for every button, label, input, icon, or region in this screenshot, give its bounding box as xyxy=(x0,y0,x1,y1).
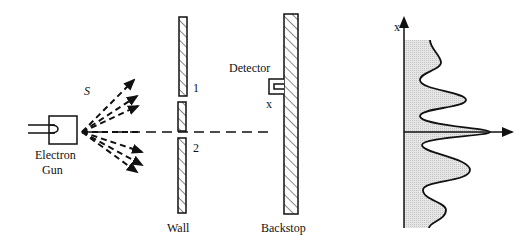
gun-label-line2: Gun xyxy=(42,163,63,177)
electron-gun xyxy=(28,116,77,144)
slit-2-label: 2 xyxy=(193,141,199,155)
gun-label-line1: Electron xyxy=(35,148,76,162)
electron-paths xyxy=(82,80,142,172)
graph-axis-label: x xyxy=(394,20,400,34)
backstop xyxy=(284,14,298,214)
source-label: S xyxy=(84,84,90,98)
detector-position-label: x xyxy=(266,97,272,111)
slit-1-label: 1 xyxy=(193,81,199,95)
backstop-label: Backstop xyxy=(261,221,306,235)
detector xyxy=(269,79,284,94)
detector-label: Detector xyxy=(229,61,270,75)
wall xyxy=(178,17,187,213)
wall-label: Wall xyxy=(167,221,190,235)
interference-graph xyxy=(404,18,512,228)
double-slit-diagram: Electron Gun S 1 2 Wall Backstop Detecto… xyxy=(0,0,531,244)
